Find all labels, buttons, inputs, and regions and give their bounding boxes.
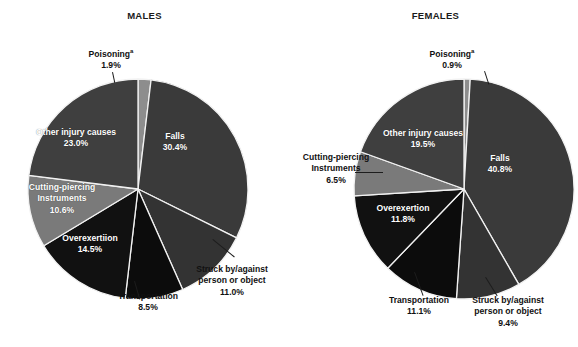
slice-value-falls-females: 40.8% (488, 164, 512, 174)
chart-panel-females: FEMALES Poisoninga 0.9% Falls 40.8% Stru… (289, 0, 578, 347)
slice-label-falls-females-name: Falls (490, 153, 510, 163)
slice-label-cutting-females-line1: Cutting-piercing (303, 152, 369, 162)
slice-label-cutting-males: Cutting-piercing Instruments 10.6% (14, 182, 110, 216)
slice-label-cutting-males-line1: Cutting-piercing (29, 182, 95, 192)
slice-value-overexertion-females: 11.8% (391, 214, 415, 224)
slice-label-struck-females-line1: Struck by/against (472, 295, 544, 305)
slice-value-transportation-females: 11.1% (407, 306, 431, 316)
slice-label-falls-males-name: Falls (165, 131, 185, 141)
slice-value-falls-males: 30.4% (163, 142, 187, 152)
slice-label-transportation-females: Transportation 11.1% (370, 295, 468, 318)
slice-label-overexertion-females: Overexertion 11.8% (361, 203, 445, 226)
slice-label-falls-females: Falls 40.8% (465, 153, 535, 176)
slice-value-transportation-males: 8.5% (138, 302, 158, 312)
slice-value-struck-females: 9.4% (498, 318, 518, 328)
slice-value-poisoning-males: 1.9% (101, 60, 121, 70)
slice-label-cutting-females: Cutting-piercing Instruments 6.5% (288, 152, 384, 186)
slice-label-transportation-females-name: Transportation (389, 295, 449, 305)
slice-label-transportation-males-name: Transportation (118, 291, 178, 301)
footnote-marker-poisoning-males: a (130, 48, 133, 54)
slice-label-overexertion-females-name: Overexertion (376, 203, 429, 213)
slice-label-transportation-males: Transportation 8.5% (96, 291, 200, 314)
slice-value-other-males: 23.0% (64, 138, 88, 148)
slice-value-other-females: 19.5% (411, 139, 435, 149)
slice-label-other-females-name: Other injury causes (383, 128, 463, 138)
slice-label-falls-males: Falls 30.4% (138, 131, 212, 154)
slice-label-struck-males-line1: Struck by/against (196, 264, 268, 274)
slice-label-poisoning-males: Poisoninga 1.9% (56, 49, 166, 72)
leader-line-cutting-females (355, 172, 383, 173)
slice-value-cutting-females: 6.5% (326, 175, 346, 185)
panel-title-females: FEMALES (291, 10, 578, 21)
slice-value-poisoning-females: 0.9% (442, 60, 462, 70)
slice-value-cutting-males: 10.6% (50, 205, 74, 215)
slice-label-poisoning-males-name: Poisoning (89, 49, 131, 59)
slice-label-poisoning-females-name: Poisoning (430, 49, 472, 59)
slice-label-other-males: Other injury causes 23.0% (25, 127, 127, 150)
slice-label-struck-males-line2: person or object (198, 275, 265, 285)
slice-label-other-females: Other injury causes 19.5% (372, 128, 474, 151)
panel-title-males: MALES (0, 10, 289, 21)
slice-label-cutting-males-line2: Instruments (37, 193, 86, 203)
pie-svg-females (353, 78, 575, 300)
footnote-marker-poisoning-females: a (471, 48, 474, 54)
slice-label-other-males-name: Other injury causes (36, 127, 116, 137)
pie-chart-females (353, 78, 575, 300)
slice-label-overexertion-males: Overexertiion 14.5% (48, 233, 132, 256)
chart-panel-males: MALES Poisoninga 1.9% Falls 30.4% Struck… (0, 0, 289, 347)
slice-value-struck-males: 11.0% (220, 287, 244, 297)
slice-label-overexertion-males-name: Overexertiion (62, 233, 117, 243)
slice-label-cutting-females-line2: Instruments (311, 163, 360, 173)
slice-label-poisoning-females: Poisoninga 0.9% (399, 49, 505, 72)
slice-label-struck-females-line2: person or object (474, 306, 541, 316)
slice-value-overexertion-males: 14.5% (78, 244, 102, 254)
slice-label-struck-females: Struck by/against person or object 9.4% (454, 295, 562, 329)
